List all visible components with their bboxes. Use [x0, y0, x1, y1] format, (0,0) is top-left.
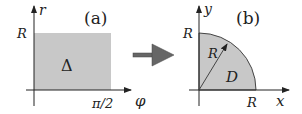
y-axis-label: y [203, 1, 213, 17]
r-axis-label: r [39, 2, 47, 18]
panel-b-label: (b) [236, 8, 260, 28]
phi-axis-label: φ [135, 92, 146, 110]
y-tick-label: R [182, 26, 193, 41]
panel-a-label: (a) [84, 8, 107, 28]
pi-half-tick-label: π/2 [91, 96, 113, 111]
x-tick-label: R [246, 95, 257, 110]
panel-b: y (b) R R D R x [182, 1, 289, 110]
transform-arrow-icon [133, 44, 174, 66]
panel-a: r (a) R Δ π/2 φ [16, 2, 146, 111]
delta-label: Δ [61, 56, 73, 75]
figure: r (a) R Δ π/2 φ y (b) R R D R x [0, 0, 302, 114]
d-region-label: D [225, 68, 238, 86]
r-tick-label: R [16, 26, 27, 41]
radius-label: R [207, 46, 218, 61]
x-axis-label: x [276, 92, 285, 110]
